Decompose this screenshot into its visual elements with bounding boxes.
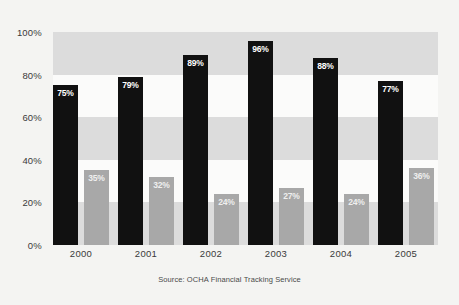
y-axis: 100% 80% 60% 40% 20% 0%	[0, 32, 47, 245]
bar-value-label: 27%	[279, 192, 304, 201]
bar-value-label: 75%	[53, 89, 78, 98]
bar-value-label: 35%	[84, 174, 109, 183]
y-tick-80: 80%	[22, 69, 42, 80]
bar-dark-2002[interactable]: 89%	[183, 55, 208, 245]
bar-group-2002: 89% 24%	[183, 32, 239, 245]
x-tick-2000: 2000	[53, 248, 109, 259]
source-note: Source: OCHA Financial Tracking Service	[0, 275, 459, 284]
bar-value-label: 36%	[409, 172, 434, 181]
bar-group-2003: 96% 27%	[248, 32, 304, 245]
bar-value-label: 77%	[378, 85, 403, 94]
bar-light-2005[interactable]: 36%	[409, 168, 434, 245]
bar-dark-2000[interactable]: 75%	[53, 85, 78, 245]
x-axis: 2000 2001 2002 2003 2004 2005	[53, 248, 438, 266]
y-tick-20: 20%	[22, 197, 42, 208]
bar-group-2004: 88% 24%	[313, 32, 369, 245]
bar-value-label: 96%	[248, 45, 273, 54]
y-tick-0: 0%	[28, 240, 42, 251]
bar-value-label: 24%	[344, 198, 369, 207]
x-tick-2001: 2001	[118, 248, 174, 259]
x-tick-2005: 2005	[378, 248, 434, 259]
bar-groups: 75% 35% 79% 32% 89% 24% 96%	[53, 32, 438, 245]
bar-value-label: 79%	[118, 81, 143, 90]
bar-group-2000: 75% 35%	[53, 32, 109, 245]
y-tick-100: 100%	[17, 27, 42, 38]
bar-light-2003[interactable]: 27%	[279, 188, 304, 246]
bar-light-2000[interactable]: 35%	[84, 170, 109, 245]
bar-group-2005: 77% 36%	[378, 32, 434, 245]
x-tick-2002: 2002	[183, 248, 239, 259]
bar-dark-2005[interactable]: 77%	[378, 81, 403, 245]
bar-dark-2004[interactable]: 88%	[313, 58, 338, 245]
bar-dark-2003[interactable]: 96%	[248, 41, 273, 245]
bar-light-2004[interactable]: 24%	[344, 194, 369, 245]
bar-dark-2001[interactable]: 79%	[118, 77, 143, 245]
bar-value-label: 32%	[149, 181, 174, 190]
bar-light-2001[interactable]: 32%	[149, 177, 174, 245]
bar-value-label: 24%	[214, 198, 239, 207]
y-tick-60: 60%	[22, 112, 42, 123]
bar-light-2002[interactable]: 24%	[214, 194, 239, 245]
y-tick-40: 40%	[22, 154, 42, 165]
bar-value-label: 89%	[183, 59, 208, 68]
x-tick-2004: 2004	[313, 248, 369, 259]
chart-container: 100% 80% 60% 40% 20% 0% 75% 35% 79% 32%	[0, 0, 459, 305]
bar-value-label: 88%	[313, 62, 338, 71]
x-tick-2003: 2003	[248, 248, 304, 259]
bar-group-2001: 79% 32%	[118, 32, 174, 245]
